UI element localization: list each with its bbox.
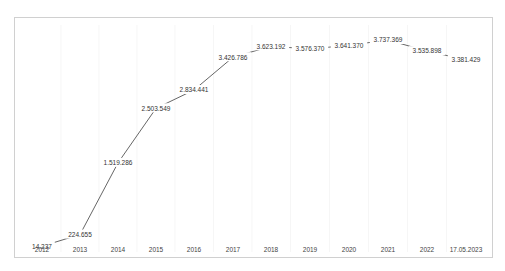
x-tick-label: 2020 [342, 246, 357, 253]
data-label: 2.503.549 [142, 105, 171, 112]
data-label: 3.641.370 [335, 42, 364, 49]
gridlines [61, 25, 447, 252]
line-chart: 14.237224.6551.519.2862.503.5492.834.441… [0, 0, 505, 271]
x-tick-label: 2016 [187, 246, 202, 253]
x-tick-label: 2021 [381, 246, 396, 253]
x-tick-label: 17.05.2023 [450, 246, 483, 253]
data-label: 3.535.898 [413, 47, 442, 54]
x-tick-label: 2017 [226, 246, 241, 253]
data-label: 3.576.370 [296, 45, 325, 52]
x-tick-label: 2018 [264, 246, 279, 253]
x-tick-label: 2014 [111, 246, 126, 253]
x-tick-label: 2012 [35, 246, 50, 253]
data-label: 2.834.441 [180, 86, 209, 93]
data-label: 1.519.286 [104, 159, 133, 166]
x-tick-label: 2019 [303, 246, 318, 253]
x-axis-ticks: 2012201320142015201620172018201920202021… [35, 246, 483, 253]
data-labels: 14.237224.6551.519.2862.503.5492.834.441… [29, 35, 484, 250]
x-tick-label: 2015 [149, 246, 164, 253]
x-tick-label: 2013 [73, 246, 88, 253]
series-line [42, 40, 466, 246]
data-label: 3.381.429 [452, 56, 481, 63]
data-label: 3.426.786 [219, 54, 248, 61]
data-label: 224.655 [68, 231, 92, 238]
data-label: 3.623.192 [257, 43, 286, 50]
data-label: 3.737.369 [374, 36, 403, 43]
x-tick-label: 2022 [420, 246, 435, 253]
